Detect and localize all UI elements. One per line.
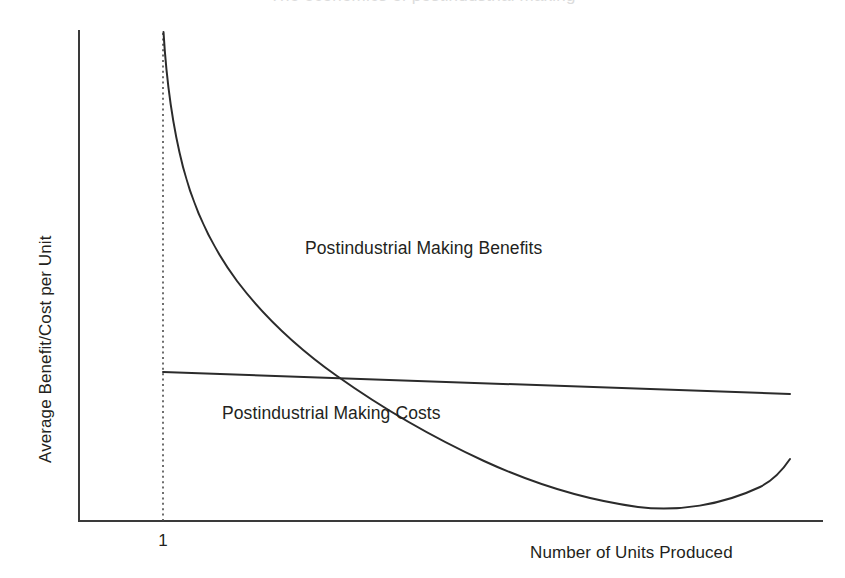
chart-figure: The economics of postindustrial making A… <box>0 0 845 578</box>
benefits-series-label: Postindustrial Making Benefits <box>305 238 542 259</box>
x-axis-label: Number of Units Produced <box>530 543 733 563</box>
costs-series-line <box>163 372 790 394</box>
benefits-series-line <box>164 32 791 509</box>
y-axis-label: Average Benefit/Cost per Unit <box>36 236 56 464</box>
costs-series-label: Postindustrial Making Costs <box>222 403 441 424</box>
x-axis-tick-label-1: 1 <box>143 531 183 551</box>
plot-area <box>0 0 845 578</box>
